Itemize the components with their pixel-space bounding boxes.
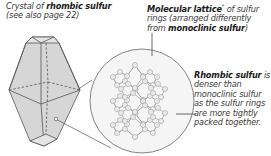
crystal-caption: Crystal of rhombic sulfur (see also page… [6, 2, 146, 21]
crystal-caption-line2: (see also page 22) [6, 10, 79, 20]
lattice-caption-bold2: monoclinic sulfur [168, 23, 245, 33]
crystal-illustration [9, 37, 80, 146]
rhombic-caption: Rhombic sulfur is denser than monoclinic… [194, 71, 271, 127]
lattice-caption: Molecular lattice* of sulfur rings (arra… [147, 2, 271, 33]
lattice-caption-text2: ) [245, 23, 248, 33]
